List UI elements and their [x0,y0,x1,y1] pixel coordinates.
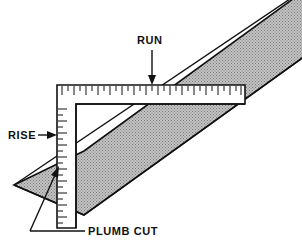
rise-label: RISE [8,129,36,141]
diagram-canvas: RUN RISE PLUMB CUT [0,0,302,250]
rafter-square-diagram: RUN RISE PLUMB CUT [0,0,302,250]
plumb-cut-label: PLUMB CUT [88,225,158,237]
annotation-run: RUN [137,34,163,85]
run-arrowhead [148,75,156,85]
annotation-rise: RISE [8,129,57,141]
rise-arrowhead [47,131,57,139]
run-label: RUN [137,34,163,46]
